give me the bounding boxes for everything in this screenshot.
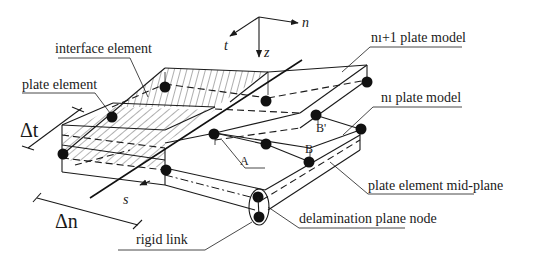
node-a — [261, 139, 272, 150]
n-axis-arrow — [259, 17, 298, 23]
delta-t-label: Δt — [20, 119, 39, 141]
node — [58, 149, 69, 160]
plate-element-label: plate element — [22, 77, 97, 92]
node — [209, 129, 220, 140]
delamination-diagram: n t z — [0, 0, 533, 267]
point-a-label: A — [240, 154, 249, 168]
node — [356, 124, 367, 135]
node — [261, 96, 272, 107]
point-b-label: B — [305, 142, 313, 156]
rigid-link-label: rigid link — [136, 232, 188, 247]
lower-plate-label: nı plate model — [381, 90, 461, 105]
delta-n-label: Δn — [55, 210, 78, 232]
node — [362, 77, 373, 88]
n-axis-label: n — [302, 15, 309, 30]
mid-plane-label: plate element mid-plane — [368, 178, 503, 193]
upper-plate-leader — [342, 47, 462, 72]
upper-plate-label: nı+1 plate model — [371, 30, 466, 45]
node-b — [304, 157, 315, 168]
diagram-canvas: n t z — [0, 0, 533, 267]
t-axis-arrow — [230, 17, 259, 36]
node-b-prime — [311, 110, 322, 121]
delamination-node-label: delamination plane node — [299, 211, 437, 226]
interface-element-label: interface element — [55, 41, 152, 56]
s-axis-label: s — [123, 192, 129, 207]
node — [161, 165, 172, 176]
axis-triad: n t z — [224, 15, 309, 60]
link-a — [215, 133, 268, 145]
point-b-prime-label: B' — [316, 121, 326, 135]
z-axis-label: z — [263, 45, 270, 60]
node — [107, 112, 118, 123]
t-axis-label: t — [224, 38, 229, 53]
node — [160, 82, 171, 93]
